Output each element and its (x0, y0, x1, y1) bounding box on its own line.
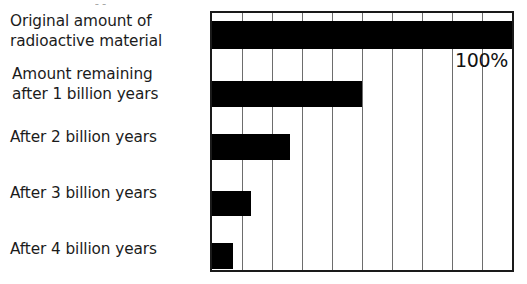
bar-1 (212, 81, 362, 107)
chart-title-cutoff: y (95, 0, 215, 5)
gridline-50-percent (362, 13, 363, 270)
gridline-70-percent (422, 13, 423, 270)
category-label-after-3-billion: After 3 billion years (10, 184, 199, 204)
value-annotation-100-percent: 100% (455, 51, 508, 70)
bar-0 (212, 21, 512, 49)
category-label-original-amount: Original amount of radioactive material (10, 12, 199, 51)
bar-4 (212, 243, 233, 269)
plot-area: 100% (210, 11, 514, 272)
gridline-40-percent (332, 13, 333, 270)
bar-3 (212, 191, 251, 216)
category-label-column: Original amount of radioactive material … (0, 12, 205, 272)
gridline-60-percent (392, 13, 393, 270)
category-label-after-4-billion: After 4 billion years (10, 240, 199, 260)
radioactive-decay-bar-chart: y Original amount of radioactive materia… (0, 0, 527, 284)
category-label-after-1-billion: Amount remaining after 1 billion years (12, 65, 199, 104)
gridline-80-percent (452, 13, 453, 270)
bar-2 (212, 134, 290, 160)
category-label-after-2-billion: After 2 billion years (10, 128, 199, 148)
plot-inner: 100% (212, 13, 512, 270)
gridline-30-percent (302, 13, 303, 270)
